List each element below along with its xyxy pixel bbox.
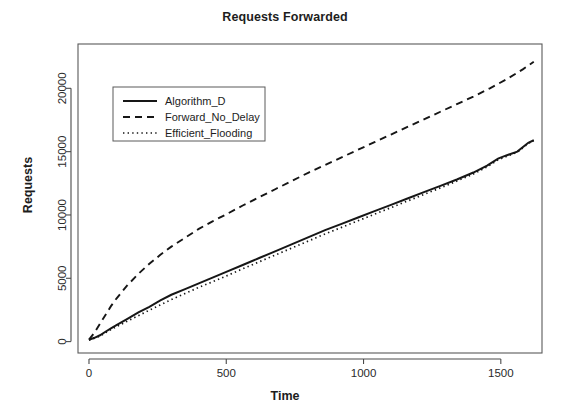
y-tick-label: 15000 [56,136,68,168]
y-tick-label: 10000 [56,199,68,231]
x-tick-label: 1500 [488,367,514,379]
series-line-efficient-flooding [89,141,534,341]
y-axis-label: Requests [21,135,35,235]
x-axis-label: Time [0,389,570,403]
x-tick-label: 0 [86,367,92,379]
y-tick-label: 20000 [56,72,68,104]
legend-label: Forward_No_Delay [165,111,260,123]
plot-area: 05001000150005000100001500020000Algorith… [0,0,570,419]
x-tick-label: 1000 [351,367,377,379]
legend-label: Algorithm_D [165,95,226,107]
y-tick-label: 0 [56,338,68,344]
chart-figure: Requests Forwarded 050010001500050001000… [0,0,570,419]
legend-label: Efficient_Flooding [165,127,252,139]
y-tick-label: 5000 [56,265,68,291]
x-tick-label: 500 [217,367,236,379]
legend: Algorithm_DForward_No_DelayEfficient_Flo… [113,87,265,141]
